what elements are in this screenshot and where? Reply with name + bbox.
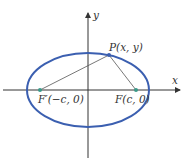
focus-left-label: F′(−c, 0) [38, 93, 84, 105]
y-axis-label: y [93, 9, 99, 21]
point-p [107, 53, 111, 57]
x-axis-label: x [172, 74, 178, 86]
focus-left-point [38, 88, 42, 92]
point-p-label: P(x, y) [109, 41, 143, 53]
ellipse-diagram: y x P(x, y) F′(−c, 0) F(c, 0) [0, 0, 187, 166]
focus-right-point [134, 88, 138, 92]
focus-right-label: F(c, 0) [115, 93, 150, 105]
diagram-canvas [0, 0, 187, 166]
